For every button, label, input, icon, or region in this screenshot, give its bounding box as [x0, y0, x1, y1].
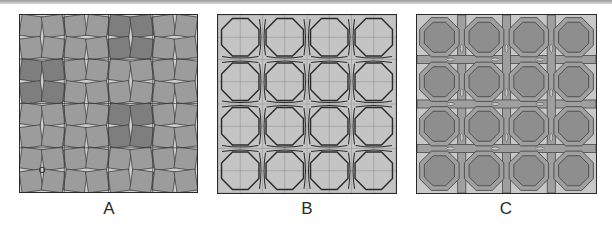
panel-a-label: A	[89, 199, 129, 219]
panel-c-filled-octagon-pattern	[416, 14, 597, 194]
panel-b-label: B	[287, 199, 327, 219]
panel-a-tilted-square-pattern	[19, 14, 198, 193]
pattern-b-graphic	[218, 15, 396, 193]
panel-b-outlined-octagon-pattern	[217, 14, 397, 194]
top-border-line	[0, 0, 612, 4]
panel-c-label: C	[486, 199, 526, 219]
pattern-c-graphic	[417, 15, 596, 193]
pattern-a-graphic	[20, 15, 197, 192]
